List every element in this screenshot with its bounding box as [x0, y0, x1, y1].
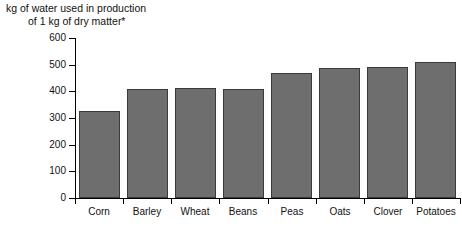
x-label-potatoes: Potatoes [412, 206, 460, 217]
y-tick-label-200: 200 [22, 140, 66, 150]
x-label-peas: Peas [268, 206, 316, 217]
y-tick-label-text: 400 [26, 86, 66, 96]
x-tick-3 [219, 198, 220, 204]
y-tick-label-300: 300 [22, 113, 66, 123]
x-label-oats: Oats [316, 206, 364, 217]
y-tick-600 [69, 38, 75, 39]
x-tick-4 [268, 198, 269, 204]
x-label-wheat: Wheat [171, 206, 219, 217]
bar-clover [367, 67, 408, 198]
bar-corn [79, 111, 120, 198]
x-label-beans: Beans [219, 206, 267, 217]
y-tick-200 [69, 145, 75, 146]
y-tick-label-100: 100 [22, 166, 66, 176]
y-tick-300 [69, 118, 75, 119]
bar-peas [271, 73, 312, 198]
bar-oats [319, 68, 360, 198]
bar-wheat [175, 88, 216, 198]
y-tick-label-text: 300 [26, 113, 66, 123]
x-tick-8 [460, 198, 461, 204]
y-tick-500 [69, 65, 75, 66]
x-tick-1 [123, 198, 124, 204]
y-tick-label-text: 100 [26, 166, 66, 176]
y-tick-400 [69, 91, 75, 92]
x-label-barley: Barley [123, 206, 171, 217]
y-axis-line [75, 38, 76, 199]
x-label-corn: Corn [75, 206, 123, 217]
bar-chart: 0100200300400500600 CornBarleyWheatBeans… [0, 0, 462, 233]
y-tick-label-text: 200 [26, 140, 66, 150]
y-tick-label-text: 500 [26, 60, 66, 70]
bar-barley [127, 89, 168, 198]
y-tick-label-text: 0 [26, 193, 66, 203]
x-tick-7 [412, 198, 413, 204]
x-label-clover: Clover [364, 206, 412, 217]
y-tick-label-500: 500 [22, 60, 66, 70]
y-tick-label-400: 400 [22, 86, 66, 96]
bar-potatoes [415, 62, 456, 198]
y-tick-label-0: 0 [22, 193, 66, 203]
y-tick-label-600: 600 [22, 33, 66, 43]
x-tick-2 [171, 198, 172, 204]
y-tick-100 [69, 171, 75, 172]
bar-beans [223, 89, 264, 198]
x-tick-0 [75, 198, 76, 204]
y-tick-label-text: 600 [26, 33, 66, 43]
x-tick-6 [364, 198, 365, 204]
x-tick-5 [316, 198, 317, 204]
